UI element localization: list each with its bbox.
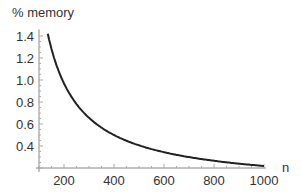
y-tick-label: 1.4 [16, 29, 34, 44]
y-tick-label: 0.4 [16, 139, 34, 154]
line-chart: 0.40.60.81.01.21.42004006008001000 % mem… [0, 0, 301, 194]
x-tick-label: 1000 [250, 173, 279, 188]
y-tick-label: 0.6 [16, 117, 34, 132]
x-tick-label: 800 [203, 173, 225, 188]
memory-curve [48, 34, 264, 166]
x-axis-label: n [282, 160, 289, 175]
x-tick-label: 400 [103, 173, 125, 188]
y-tick-label: 1.0 [16, 73, 34, 88]
y-tick-label: 0.8 [16, 95, 34, 110]
x-tick-label: 600 [153, 173, 175, 188]
y-axis-label: % memory [12, 5, 75, 20]
axes [36, 29, 266, 172]
x-tick-label: 200 [53, 173, 75, 188]
y-tick-label: 1.2 [16, 51, 34, 66]
